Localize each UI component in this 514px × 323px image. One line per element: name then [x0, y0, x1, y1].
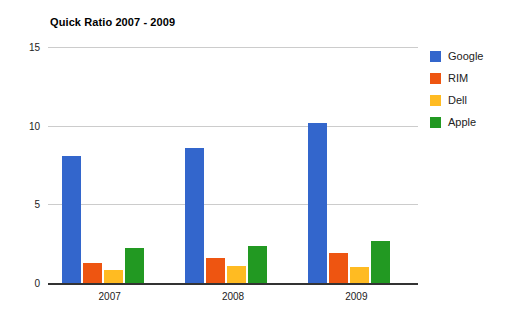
- bar-chart: Quick Ratio 2007 - 2009 051015 GoogleRIM…: [0, 0, 514, 323]
- x-tick-label-2008: 2008: [222, 291, 244, 302]
- y-axis: 051015: [0, 0, 40, 323]
- y-tick-label-15: 15: [29, 42, 40, 53]
- bar-google-2009[interactable]: [308, 123, 327, 283]
- x-axis-baseline: [48, 283, 418, 285]
- y-tick-label-10: 10: [29, 120, 40, 131]
- x-tick-label-2007: 2007: [99, 291, 121, 302]
- gridline-15: [48, 47, 418, 48]
- bar-dell-2009[interactable]: [350, 267, 369, 283]
- bar-dell-2008[interactable]: [227, 266, 246, 283]
- legend-label: Apple: [448, 116, 476, 128]
- legend-swatch-dell-icon: [430, 95, 441, 106]
- legend-item-dell[interactable]: Dell: [430, 90, 514, 110]
- bar-rim-2008[interactable]: [206, 258, 225, 283]
- y-tick-label-0: 0: [34, 278, 40, 289]
- legend-item-rim[interactable]: RIM: [430, 68, 514, 88]
- chart-title: Quick Ratio 2007 - 2009: [50, 16, 175, 28]
- bar-apple-2007[interactable]: [125, 248, 144, 283]
- chart-legend: GoogleRIMDellApple: [430, 46, 514, 134]
- bar-google-2008[interactable]: [185, 148, 204, 283]
- bar-rim-2007[interactable]: [83, 263, 102, 283]
- legend-label: RIM: [448, 72, 468, 84]
- legend-item-apple[interactable]: Apple: [430, 112, 514, 132]
- bar-rim-2009[interactable]: [329, 253, 348, 283]
- legend-label: Google: [448, 50, 483, 62]
- legend-swatch-google-icon: [430, 51, 441, 62]
- gridline-5: [48, 204, 418, 205]
- gridline-10: [48, 126, 418, 127]
- y-tick-label-5: 5: [34, 199, 40, 210]
- bar-dell-2007[interactable]: [104, 270, 123, 283]
- legend-swatch-apple-icon: [430, 117, 441, 128]
- plot-area: [48, 47, 418, 283]
- bar-google-2007[interactable]: [62, 156, 81, 283]
- bar-apple-2009[interactable]: [371, 241, 390, 283]
- legend-swatch-rim-icon: [430, 73, 441, 84]
- legend-label: Dell: [448, 94, 467, 106]
- bar-apple-2008[interactable]: [248, 246, 267, 283]
- x-tick-label-2009: 2009: [345, 291, 367, 302]
- legend-item-google[interactable]: Google: [430, 46, 514, 66]
